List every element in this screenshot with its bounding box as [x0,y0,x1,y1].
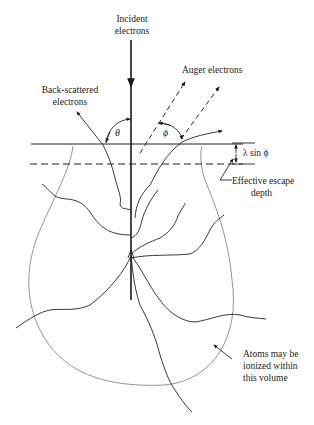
track-right-long [131,256,266,322]
track-left-mid [42,184,131,235]
escape-depth-label-1: Effective escape [232,176,294,186]
backscatter-label-1: Back-scattered [42,85,99,95]
track-down [131,256,192,412]
theta-label: θ [115,127,120,138]
backscatter-arrow [77,112,103,145]
backscatter-track [103,145,131,210]
auger-label: Auger electrons [182,65,243,75]
backscatter-label-2: electrons [53,97,88,107]
auger-arrow-1 [140,82,185,153]
track-right-lower [131,215,224,258]
volume-label-2: ionized within [243,361,298,371]
theta-arc-start [106,132,110,142]
auger-arrow-2 [181,87,219,139]
escape-expression-label: λ sin ϕ [243,148,268,158]
escape-depth-label-2: depth [251,188,272,198]
volume-label-3: this volume [243,373,288,383]
track-left-lower [16,256,131,328]
volume-label-1: Atoms may be [243,349,298,359]
electron-interaction-diagram: Incident electrons Auger electrons Back-… [0,0,314,425]
incident-label-1: Incident [116,14,147,24]
incident-label-2: electrons [115,26,150,36]
phi-label: ϕ [163,127,168,138]
